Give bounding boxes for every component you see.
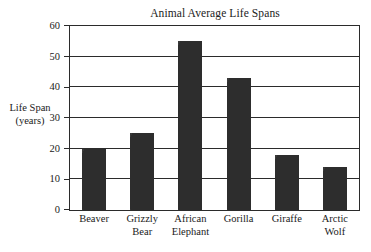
y-tick-label-20: 20 [34, 143, 60, 154]
x-label-line-1: Arctic [311, 213, 359, 226]
x-label-arctic-wolf: ArcticWolf [311, 213, 359, 238]
x-label-gorilla: Gorilla [215, 213, 263, 226]
chart-title: Animal Average Life Spans [69, 6, 361, 20]
y-tick-label-30: 30 [34, 112, 60, 123]
x-label-giraffe: Giraffe [263, 213, 311, 226]
y-tick-label-50: 50 [34, 51, 60, 62]
gridline-50 [70, 56, 359, 57]
gridline-40 [70, 86, 359, 87]
x-label-line-2: Wolf [311, 226, 359, 239]
y-tick-label-60: 60 [34, 20, 60, 31]
bar-grizzly-bear [130, 133, 154, 210]
x-label-african-elephant: AfricanElephant [166, 213, 214, 238]
x-label-line-2: Bear [118, 226, 166, 239]
bar-arctic-wolf [323, 167, 347, 210]
bar-beaver [82, 149, 106, 210]
bar-chart-figure: Animal Average Life Spans Life Span (yea… [0, 0, 371, 252]
x-label-line-1: Grizzly [118, 213, 166, 226]
x-label-line-2: Elephant [166, 226, 214, 239]
gridline-20 [70, 148, 359, 149]
y-tick-label-10: 10 [34, 173, 60, 184]
bar-african-elephant [178, 41, 202, 210]
x-label-grizzly-bear: GrizzlyBear [118, 213, 166, 238]
bar-gorilla [227, 78, 251, 210]
x-label-line-1: Giraffe [263, 213, 311, 226]
x-label-line-1: Beaver [70, 213, 118, 226]
y-tick-label-0: 0 [34, 204, 60, 215]
gridline-10 [70, 178, 359, 179]
x-label-beaver: Beaver [70, 213, 118, 226]
bar-giraffe [275, 155, 299, 210]
gridline-30 [70, 117, 359, 118]
y-tick-label-40: 40 [34, 81, 60, 92]
x-label-line-1: Gorilla [215, 213, 263, 226]
plot-area [69, 25, 360, 211]
x-label-line-1: African [166, 213, 214, 226]
